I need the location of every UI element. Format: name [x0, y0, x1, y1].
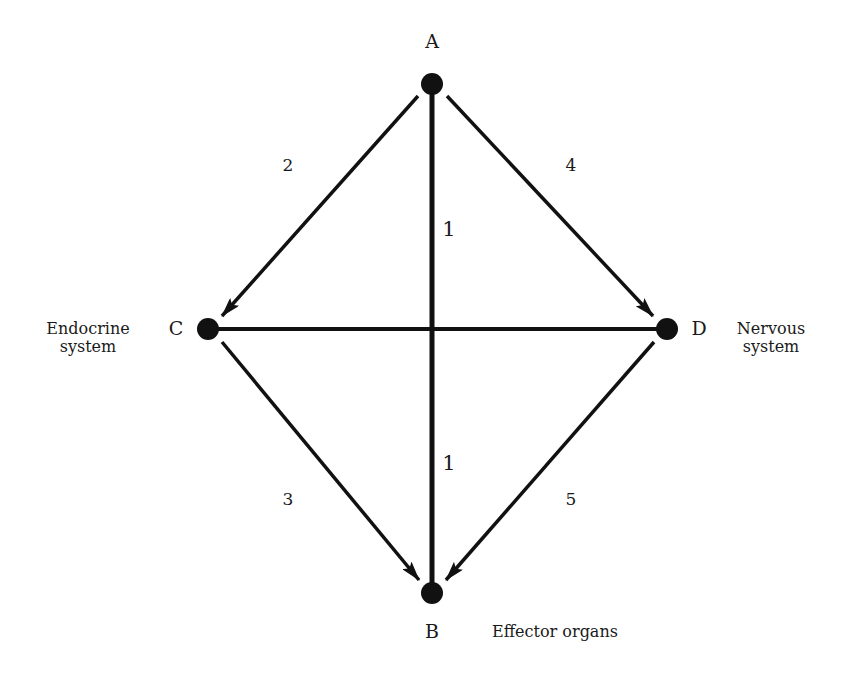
node-c-label: C: [169, 318, 184, 340]
arrow-5-d-to-b: [446, 342, 654, 580]
node-c-dot: [197, 318, 219, 340]
diagram-stage: A B C D Endocrine system Nervous system …: [0, 0, 845, 673]
node-b-label: B: [425, 621, 439, 643]
node-a-dot: [421, 73, 443, 95]
arrow-4-a-to-d: [447, 96, 653, 316]
endocrine-system-label: Endocrine system: [46, 320, 129, 357]
arrow-3-c-to-b: [222, 342, 419, 580]
edge-2-label: 2: [283, 156, 294, 176]
edge-4-label: 4: [566, 156, 577, 176]
nervous-system-label: Nervous system: [737, 320, 805, 357]
arrow-2-a-to-c: [222, 96, 418, 316]
edge-3-label: 3: [283, 490, 294, 510]
edge-1-upper-label: 1: [442, 217, 455, 241]
nervous-line2: system: [737, 338, 805, 356]
node-d-dot: [656, 318, 678, 340]
node-b-dot: [421, 582, 443, 604]
edge-5-label: 5: [566, 490, 577, 510]
node-a-label: A: [425, 31, 439, 53]
nervous-line1: Nervous: [737, 320, 805, 338]
effector-organs-label: Effector organs: [492, 623, 618, 641]
node-d-label: D: [691, 318, 706, 340]
edge-1-lower-label: 1: [442, 451, 455, 475]
endocrine-line1: Endocrine: [46, 320, 129, 338]
endocrine-line2: system: [46, 338, 129, 356]
